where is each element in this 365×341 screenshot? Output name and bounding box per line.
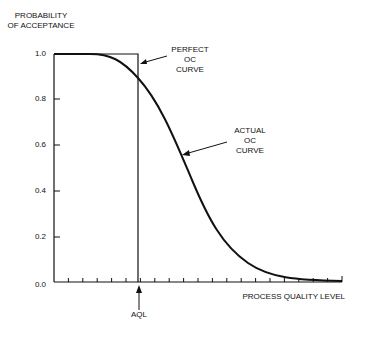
perfect-oc-label: PERFECT OC CURVE (165, 45, 215, 75)
y-ticks (54, 99, 60, 237)
y-axis-title-line1: PROBABILITY (6, 11, 76, 21)
perfect-label-line3: CURVE (165, 65, 215, 75)
aql-label: AQL (126, 310, 152, 320)
perfect-oc-curve (54, 54, 138, 282)
y-axis-title-line2: OF ACCEPTANCE (6, 21, 76, 31)
y-tick-0-8: 0.8 (18, 94, 46, 103)
y-tick-1-0: 1.0 (18, 49, 46, 58)
actual-oc-curve (54, 54, 342, 281)
y-tick-0-4: 0.4 (18, 186, 46, 195)
perfect-label-line2: OC (165, 55, 215, 65)
y-tick-0-6: 0.6 (18, 140, 46, 149)
aql-arrowhead-icon (136, 285, 142, 293)
actual-arrowhead-icon (182, 150, 190, 156)
actual-label-line1: ACTUAL (225, 126, 275, 136)
perfect-arrowhead-icon (140, 59, 147, 64)
actual-arrow (185, 142, 227, 154)
actual-label-line3: CURVE (225, 146, 275, 156)
actual-label-line2: OC (225, 136, 275, 146)
y-tick-0-0: 0.0 (18, 280, 46, 289)
y-tick-0-2: 0.2 (18, 232, 46, 241)
actual-oc-label: ACTUAL OC CURVE (225, 126, 275, 156)
y-axis-title: PROBABILITY OF ACCEPTANCE (6, 11, 76, 31)
perfect-label-line1: PERFECT (165, 45, 215, 55)
x-axis-title: PROCESS QUALITY LEVEL (233, 292, 345, 302)
